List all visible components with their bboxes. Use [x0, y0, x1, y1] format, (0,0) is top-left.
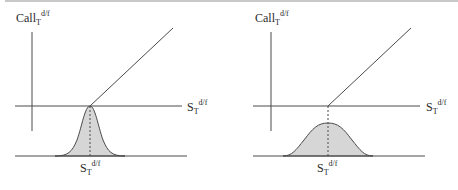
call-payoff-diagram: CallTd/f STd/f STd/f CallTd/f STd/f STd/… — [0, 0, 458, 190]
left-payoff-line — [90, 28, 173, 106]
svg-text:STd/f: STd/f — [187, 98, 208, 116]
left-y-axis-label: CallTd/f — [16, 9, 50, 27]
svg-text:STd/f: STd/f — [317, 159, 338, 177]
left-strike-label: STd/f — [80, 159, 101, 177]
right-payoff-line — [328, 28, 411, 106]
right-y-axis-label: CallTd/f — [255, 9, 289, 27]
svg-text:STd/f: STd/f — [426, 98, 447, 116]
right-strike-label: STd/f — [317, 159, 338, 177]
left-x-axis-label: STd/f — [187, 98, 208, 116]
right-panel: CallTd/f STd/f STd/f — [253, 9, 447, 177]
svg-text:CallTd/f: CallTd/f — [255, 9, 289, 27]
svg-text:STd/f: STd/f — [80, 159, 101, 177]
right-x-axis-label: STd/f — [426, 98, 447, 116]
left-panel: CallTd/f STd/f STd/f — [15, 9, 208, 177]
svg-text:CallTd/f: CallTd/f — [16, 9, 50, 27]
